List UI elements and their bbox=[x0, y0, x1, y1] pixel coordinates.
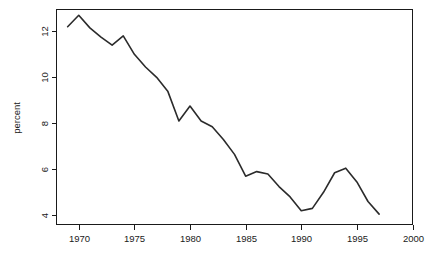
x-axis-ticks bbox=[80, 225, 414, 230]
data-line-percent bbox=[68, 15, 380, 214]
y-axis-ticks bbox=[52, 32, 57, 216]
plot-frame bbox=[57, 10, 413, 225]
x-axis-tick-labels: 1970197519801985199019952000 bbox=[69, 233, 424, 244]
y-tick-label: 4 bbox=[39, 213, 50, 218]
x-tick-label: 1975 bbox=[124, 233, 145, 244]
x-tick-label: 1985 bbox=[236, 233, 257, 244]
x-tick-label: 1995 bbox=[347, 233, 368, 244]
x-tick-label: 2000 bbox=[403, 233, 424, 244]
y-axis-title-text: percent bbox=[11, 102, 22, 134]
y-axis-title: percent bbox=[11, 102, 22, 134]
x-tick-label: 1990 bbox=[291, 233, 312, 244]
data-series-group bbox=[68, 15, 380, 214]
y-tick-label: 12 bbox=[39, 26, 50, 37]
line-chart: 4681012 1970197519801985199019952000 per… bbox=[0, 0, 430, 259]
y-tick-label: 10 bbox=[39, 72, 50, 83]
y-tick-label: 8 bbox=[39, 121, 50, 126]
x-tick-label: 1980 bbox=[180, 233, 201, 244]
x-tick-label: 1970 bbox=[69, 233, 90, 244]
y-tick-label: 6 bbox=[39, 167, 50, 172]
chart-screenshot: 4681012 1970197519801985199019952000 per… bbox=[0, 0, 430, 259]
y-axis-tick-labels: 4681012 bbox=[39, 26, 50, 218]
